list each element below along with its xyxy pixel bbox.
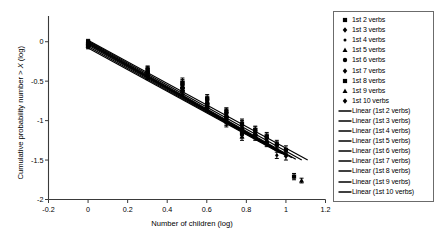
legend-label: Linear (1st 9 verbs) bbox=[352, 177, 410, 187]
legend-marker-diamond-icon bbox=[338, 96, 352, 106]
legend-label: Linear (1st 8 verbs) bbox=[352, 166, 410, 176]
legend-marker-dot-icon bbox=[338, 35, 352, 45]
y-tick-label: -2 bbox=[37, 195, 43, 204]
legend-item-marker[interactable]: 1st 6 verbs bbox=[338, 55, 431, 65]
legend-line-icon bbox=[338, 116, 352, 126]
chart-figure: -0.200.20.40.60.811.20-0.5-1-1.5-2Number… bbox=[0, 0, 443, 244]
svg-text:Cumulative probability number: Cumulative probability number > X (log) bbox=[16, 45, 25, 179]
legend-item-marker[interactable]: 1st 7 verbs bbox=[338, 65, 431, 75]
legend-item-line[interactable]: Linear (1st 6 verbs) bbox=[338, 146, 431, 156]
legend-item-line[interactable]: Linear (1st 9 verbs) bbox=[338, 177, 431, 187]
x-tick-label: 0.8 bbox=[241, 205, 251, 214]
x-tick-label: 0.2 bbox=[123, 205, 133, 214]
marker-diamond bbox=[343, 27, 348, 32]
marker-triangle bbox=[343, 88, 348, 93]
marker-diamond bbox=[343, 68, 348, 73]
legend-marker-diamond-icon bbox=[338, 25, 352, 35]
legend-label: Linear (1st 7 verbs) bbox=[352, 156, 410, 166]
x-tick-label: 0.6 bbox=[202, 205, 212, 214]
legend-label: 1st 4 verbs bbox=[352, 35, 385, 45]
legend-line-icon bbox=[338, 146, 352, 156]
regression-line bbox=[88, 42, 296, 160]
x-tick-label: 0 bbox=[86, 205, 90, 214]
marker-triangle bbox=[343, 48, 348, 53]
legend-line-icon bbox=[338, 106, 352, 116]
legend-item-line[interactable]: Linear (1st 10 verbs) bbox=[338, 187, 431, 197]
legend-label: Linear (1st 2 verbs) bbox=[352, 106, 410, 116]
y-axis-title: Cumulative probability number > X (log) bbox=[16, 45, 25, 179]
legend-item-marker[interactable]: 1st 5 verbs bbox=[338, 45, 431, 55]
y-tick-label: -1 bbox=[37, 116, 43, 125]
legend-label: Linear (1st 3 verbs) bbox=[352, 116, 410, 126]
y-tick-label: -1.5 bbox=[31, 156, 43, 165]
marker-diamond bbox=[343, 98, 348, 103]
marker-square bbox=[343, 79, 347, 83]
x-tick-label: 1.2 bbox=[321, 205, 331, 214]
marker-circle bbox=[265, 141, 269, 145]
legend-label: Linear (1st 5 verbs) bbox=[352, 136, 410, 146]
legend-line-icon bbox=[338, 177, 352, 187]
legend-line-icon bbox=[338, 156, 352, 166]
y-tick-label: -0.5 bbox=[31, 77, 43, 86]
regression-line bbox=[88, 40, 308, 160]
legend-item-marker[interactable]: 1st 8 verbs bbox=[338, 76, 431, 86]
regression-line bbox=[88, 43, 292, 158]
legend-label: Linear (1st 10 verbs) bbox=[352, 187, 414, 197]
marker-dot bbox=[275, 154, 278, 157]
legend-line-icon bbox=[338, 126, 352, 136]
legend-marker-diamond-icon bbox=[338, 66, 352, 76]
regression-lines-layer bbox=[88, 40, 308, 160]
legend-marker-triangle-icon bbox=[338, 45, 352, 55]
legend-label: 1st 9 verbs bbox=[352, 86, 385, 96]
x-axis-title: Number of children (log) bbox=[151, 219, 233, 228]
legend-marker-square-icon bbox=[338, 76, 352, 86]
legend-label: 1st 7 verbs bbox=[352, 66, 385, 76]
legend-label: 1st 5 verbs bbox=[352, 45, 385, 55]
legend-label: Linear (1st 4 verbs) bbox=[352, 126, 410, 136]
legend-label: 1st 3 verbs bbox=[352, 25, 385, 35]
marker-dot bbox=[344, 39, 347, 42]
y-tick-label: 0 bbox=[40, 37, 44, 46]
legend-item-marker[interactable]: 1st 2 verbs bbox=[338, 15, 431, 25]
legend-line-icon bbox=[338, 166, 352, 176]
legend-marker-triangle-icon bbox=[338, 86, 352, 96]
x-tick-label: 0.4 bbox=[162, 205, 172, 214]
legend-label: Linear (1st 6 verbs) bbox=[352, 146, 410, 156]
legend-marker-square-icon bbox=[338, 15, 352, 25]
marker-square bbox=[292, 175, 296, 179]
regression-line bbox=[88, 41, 302, 160]
chart-legend: 1st 2 verbs1st 3 verbs1st 4 verbs1st 5 v… bbox=[333, 11, 434, 202]
marker-circle bbox=[343, 58, 347, 62]
legend-line-icon bbox=[338, 187, 352, 197]
legend-item-line[interactable]: Linear (1st 4 verbs) bbox=[338, 126, 431, 136]
legend-item-line[interactable]: Linear (1st 8 verbs) bbox=[338, 166, 431, 176]
legend-item-marker[interactable]: 1st 4 verbs bbox=[338, 35, 431, 45]
legend-marker-circle-icon bbox=[338, 55, 352, 65]
legend-label: 1st 6 verbs bbox=[352, 55, 385, 65]
legend-item-marker[interactable]: 1st 9 verbs bbox=[338, 86, 431, 96]
legend-item-line[interactable]: Linear (1st 5 verbs) bbox=[338, 136, 431, 146]
legend-item-line[interactable]: Linear (1st 7 verbs) bbox=[338, 156, 431, 166]
legend-item-marker[interactable]: 1st 10 verbs bbox=[338, 96, 431, 106]
legend-item-marker[interactable]: 1st 3 verbs bbox=[338, 25, 431, 35]
legend-line-icon bbox=[338, 136, 352, 146]
legend-item-line[interactable]: Linear (1st 3 verbs) bbox=[338, 116, 431, 126]
marker-square bbox=[284, 148, 288, 152]
legend-label: 1st 2 verbs bbox=[352, 15, 385, 25]
x-tick-label: -0.2 bbox=[42, 205, 54, 214]
x-tick-label: 1 bbox=[284, 205, 288, 214]
marker-square bbox=[343, 18, 347, 22]
regression-line bbox=[88, 48, 280, 153]
legend-item-line[interactable]: Linear (1st 2 verbs) bbox=[338, 106, 431, 116]
legend-label: 1st 8 verbs bbox=[352, 76, 385, 86]
legend-label: 1st 10 verbs bbox=[352, 96, 389, 106]
